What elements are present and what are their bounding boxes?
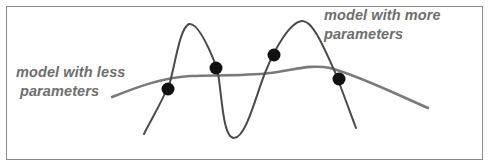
label-less-line1: model with less [16, 64, 125, 80]
label-more-line1: model with more [324, 7, 441, 23]
data-point [333, 73, 346, 86]
smooth-curve-less-parameters [112, 67, 428, 108]
label-less-line2: parameters [16, 82, 125, 101]
label-model-with-more-parameters: model with more parameters [324, 6, 441, 44]
data-point [268, 49, 281, 62]
label-model-with-less-parameters: model with less parameters [16, 63, 125, 101]
data-point [210, 62, 223, 75]
label-more-line2: parameters [324, 25, 441, 44]
data-point [162, 83, 175, 96]
